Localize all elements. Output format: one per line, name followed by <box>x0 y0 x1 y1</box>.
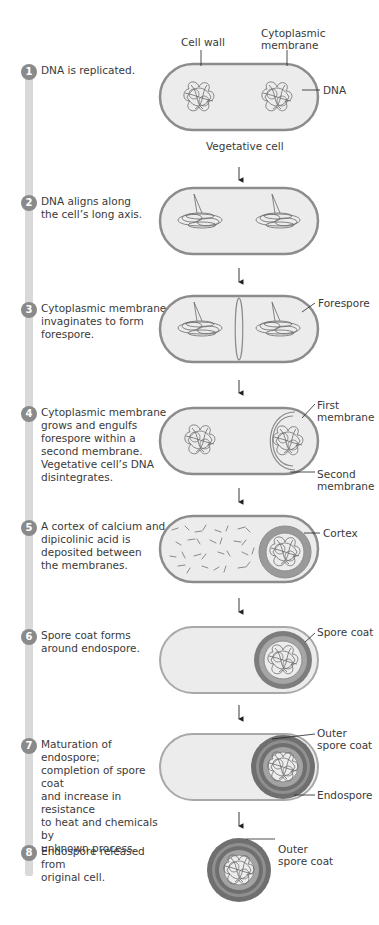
cell-dna-aligned <box>160 188 318 254</box>
step-number-badge: 3 <box>21 302 37 318</box>
cell-spore-coat <box>160 627 318 693</box>
label-first-membrane: First membrane <box>317 399 374 423</box>
step-number-badge: 5 <box>21 520 37 536</box>
label-spore-coat: Spore coat <box>317 626 373 638</box>
sporulation-diagram <box>0 0 379 925</box>
step-number-badge: 2 <box>21 195 37 211</box>
label-cortex: Cortex <box>323 527 358 539</box>
cell-forespore-forming <box>160 296 318 362</box>
cell-cortex <box>160 516 320 582</box>
label-outer-spore-coat-released: Outer spore coat <box>278 843 333 867</box>
label-second-membrane: Second membrane <box>317 468 374 492</box>
label-endospore: Endospore <box>317 789 372 801</box>
label-cytoplasmic-membrane: Cytoplasmic membrane <box>261 27 326 51</box>
label-forespore: Forespore <box>318 297 370 309</box>
label-outer-spore-coat: Outer spore coat <box>317 727 372 751</box>
free-endospore <box>207 838 275 902</box>
step-number-badge: 8 <box>21 845 37 861</box>
cell-maturation <box>160 734 318 800</box>
step-number-badge: 7 <box>21 738 37 754</box>
label-cell-wall: Cell wall <box>181 36 225 48</box>
step-number-badge: 1 <box>21 64 37 80</box>
step-number-badge: 6 <box>21 629 37 645</box>
step-number-badge: 4 <box>21 406 37 422</box>
label-vegetative-cell: Vegetative cell <box>206 140 284 152</box>
cell-engulfment <box>160 404 318 474</box>
vegetative-cell <box>160 50 320 130</box>
label-dna: DNA <box>323 84 346 96</box>
